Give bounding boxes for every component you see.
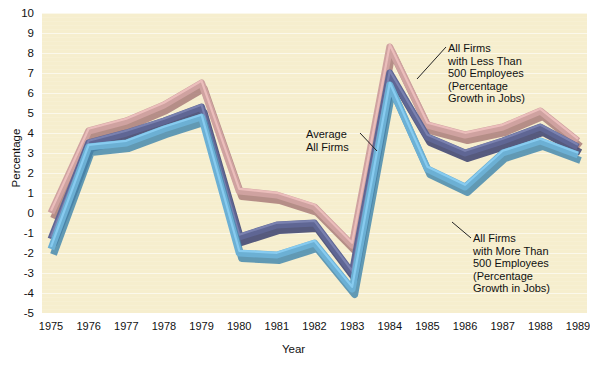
leader-line-average — [360, 133, 377, 151]
leader-line-small-firms — [417, 47, 446, 79]
leader-line-large-firms — [452, 222, 471, 238]
